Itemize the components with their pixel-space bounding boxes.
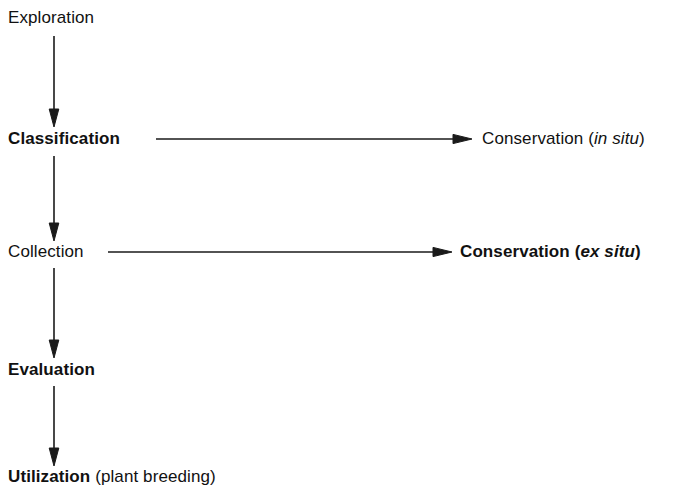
arrow-classification-to-conservation-in-situ [156, 134, 472, 143]
node-evaluation-label: Evaluation [8, 360, 95, 379]
node-utilization: Utilization (plant breeding) [8, 467, 216, 487]
node-utilization-label-tail: (plant breeding) [90, 467, 216, 486]
node-exploration-label: Exploration [8, 8, 94, 27]
node-conservation-in-situ-label-open: Conservation ( [482, 129, 594, 148]
node-utilization-label-bold: Utilization [8, 467, 90, 486]
arrow-collection-to-conservation-ex-situ [108, 247, 452, 256]
node-conservation-in-situ: Conservation (in situ) [482, 129, 645, 149]
node-exploration: Exploration [8, 8, 94, 28]
node-conservation-in-situ-label-italic: in situ [594, 129, 639, 148]
node-collection-label: Collection [8, 242, 84, 261]
node-conservation-ex-situ-label-italic: ex situ [580, 242, 635, 261]
node-conservation-ex-situ: Conservation (ex situ) [460, 242, 641, 262]
node-conservation-ex-situ-label-close: ) [635, 242, 641, 261]
node-evaluation: Evaluation [8, 360, 95, 380]
arrow-classification-to-collection [49, 156, 59, 241]
node-classification: Classification [8, 129, 120, 149]
arrow-collection-to-evaluation [49, 268, 59, 358]
node-conservation-in-situ-label-close: ) [639, 129, 645, 148]
node-collection: Collection [8, 242, 84, 262]
arrow-evaluation-to-utilization [49, 386, 59, 466]
arrow-exploration-to-classification [49, 36, 59, 127]
flowchart-diagram: Exploration Classification Conservation … [0, 0, 680, 491]
node-conservation-ex-situ-label-open: Conservation ( [460, 242, 580, 261]
node-classification-label: Classification [8, 129, 120, 148]
